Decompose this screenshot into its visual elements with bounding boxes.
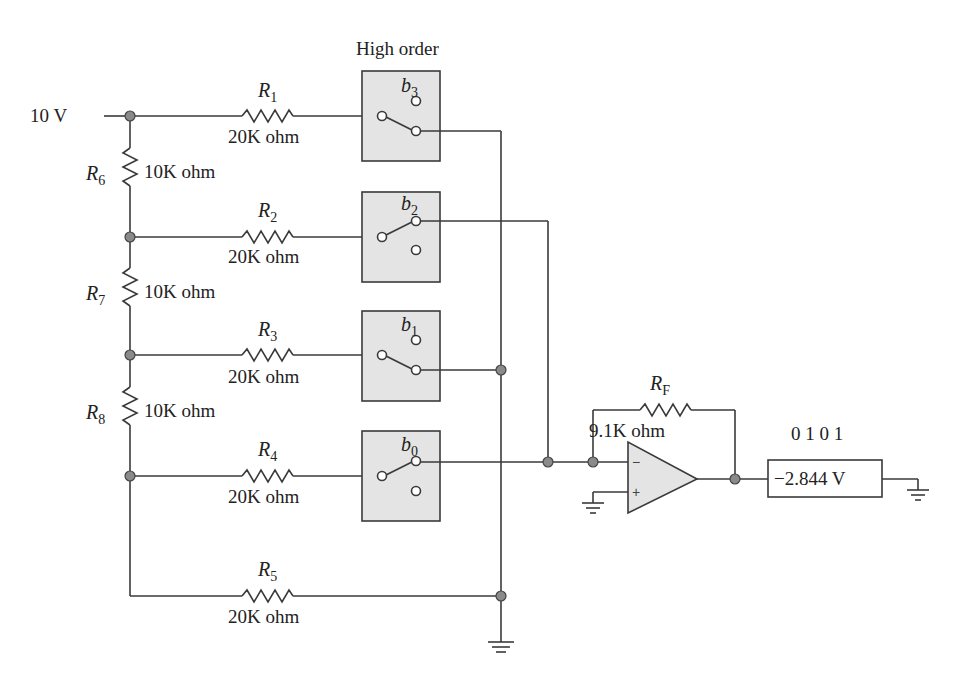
branch-r5 [130, 590, 501, 602]
output-voltage-reading: −2.844 V [774, 468, 846, 489]
resistor-r6-symbol [123, 148, 137, 186]
junction-node [588, 457, 598, 467]
resistor-r3-value: 20K ohm [228, 366, 299, 387]
binary-code-label: 0 1 0 1 [791, 423, 843, 444]
resistor-r1-name: R1 [257, 79, 277, 105]
resistor-r7-value: 10K ohm [144, 281, 215, 302]
junction-node [125, 111, 135, 121]
resistor-r7-name: R7 [85, 282, 105, 308]
high-order-label: High order [356, 38, 440, 59]
resistor-r4-value: 20K ohm [228, 486, 299, 507]
source-voltage-label: 10 V [30, 105, 67, 126]
resistor-rf-value: 9.1K ohm [589, 420, 665, 441]
branch-r3 [130, 349, 380, 361]
junction-node [496, 365, 506, 375]
junction-node [496, 591, 506, 601]
resistor-r8-name: R8 [85, 401, 105, 427]
resistor-rf-name: RF [649, 372, 670, 398]
resistor-r1-value: 20K ohm [228, 126, 299, 147]
dac-schematic: 10 V R6 10K ohm R7 10K ohm R8 10K ohm R1… [0, 0, 973, 694]
junction-node [125, 232, 135, 242]
opamp-plus-sign: + [632, 484, 640, 500]
resistor-r8-symbol [123, 387, 137, 425]
junction-node [125, 350, 135, 360]
resistor-r8-value: 10K ohm [144, 400, 215, 421]
output-ground [882, 479, 929, 500]
resistor-r3-name: R3 [257, 318, 277, 344]
branch-r2 [130, 231, 380, 243]
resistor-r6-value: 10K ohm [144, 161, 215, 182]
junction-node [730, 474, 740, 484]
junction-node [125, 471, 135, 481]
resistor-r5-value: 20K ohm [228, 606, 299, 627]
resistor-r2-name: R2 [257, 199, 277, 225]
resistor-r7-symbol [123, 268, 137, 306]
opamp-minus-sign: − [632, 454, 640, 470]
resistor-r2-value: 20K ohm [228, 246, 299, 267]
resistor-r6-name: R6 [85, 162, 105, 188]
resistor-r5-name: R5 [257, 558, 277, 584]
junction-node [543, 457, 553, 467]
branch-r4 [130, 470, 380, 482]
resistor-r4-name: R4 [257, 438, 277, 464]
branch-r1 [130, 110, 380, 122]
resistor-rf-symbol [640, 404, 691, 416]
